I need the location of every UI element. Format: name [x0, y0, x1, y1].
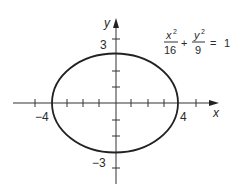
eq-x-denominator: 16 — [164, 44, 176, 56]
ellipse-equation: x 2 16 + y 2 9 = 1 — [164, 28, 230, 56]
eq-x-exponent: 2 — [173, 28, 177, 35]
eq-plus: + — [181, 37, 187, 49]
y-axis-arrow-icon — [113, 18, 119, 28]
eq-y-exponent: 2 — [201, 28, 205, 35]
eq-y-var: y — [193, 29, 201, 41]
tick-label-x-neg: −4 — [35, 110, 49, 124]
eq-rhs: 1 — [224, 37, 230, 49]
y-axis-label: y — [103, 16, 111, 30]
eq-equals: = — [210, 37, 216, 49]
tick-label-x-pos: 4 — [180, 110, 187, 124]
eq-x-var: x — [165, 29, 172, 41]
tick-label-y-pos: 3 — [100, 38, 107, 52]
x-axis-label: x — [212, 106, 220, 120]
eq-y-denominator: 9 — [195, 44, 201, 56]
ellipse-diagram: y x 3 −3 −4 4 x 2 16 + y 2 9 = 1 — [0, 0, 243, 191]
tick-label-y-neg: −3 — [92, 156, 106, 170]
